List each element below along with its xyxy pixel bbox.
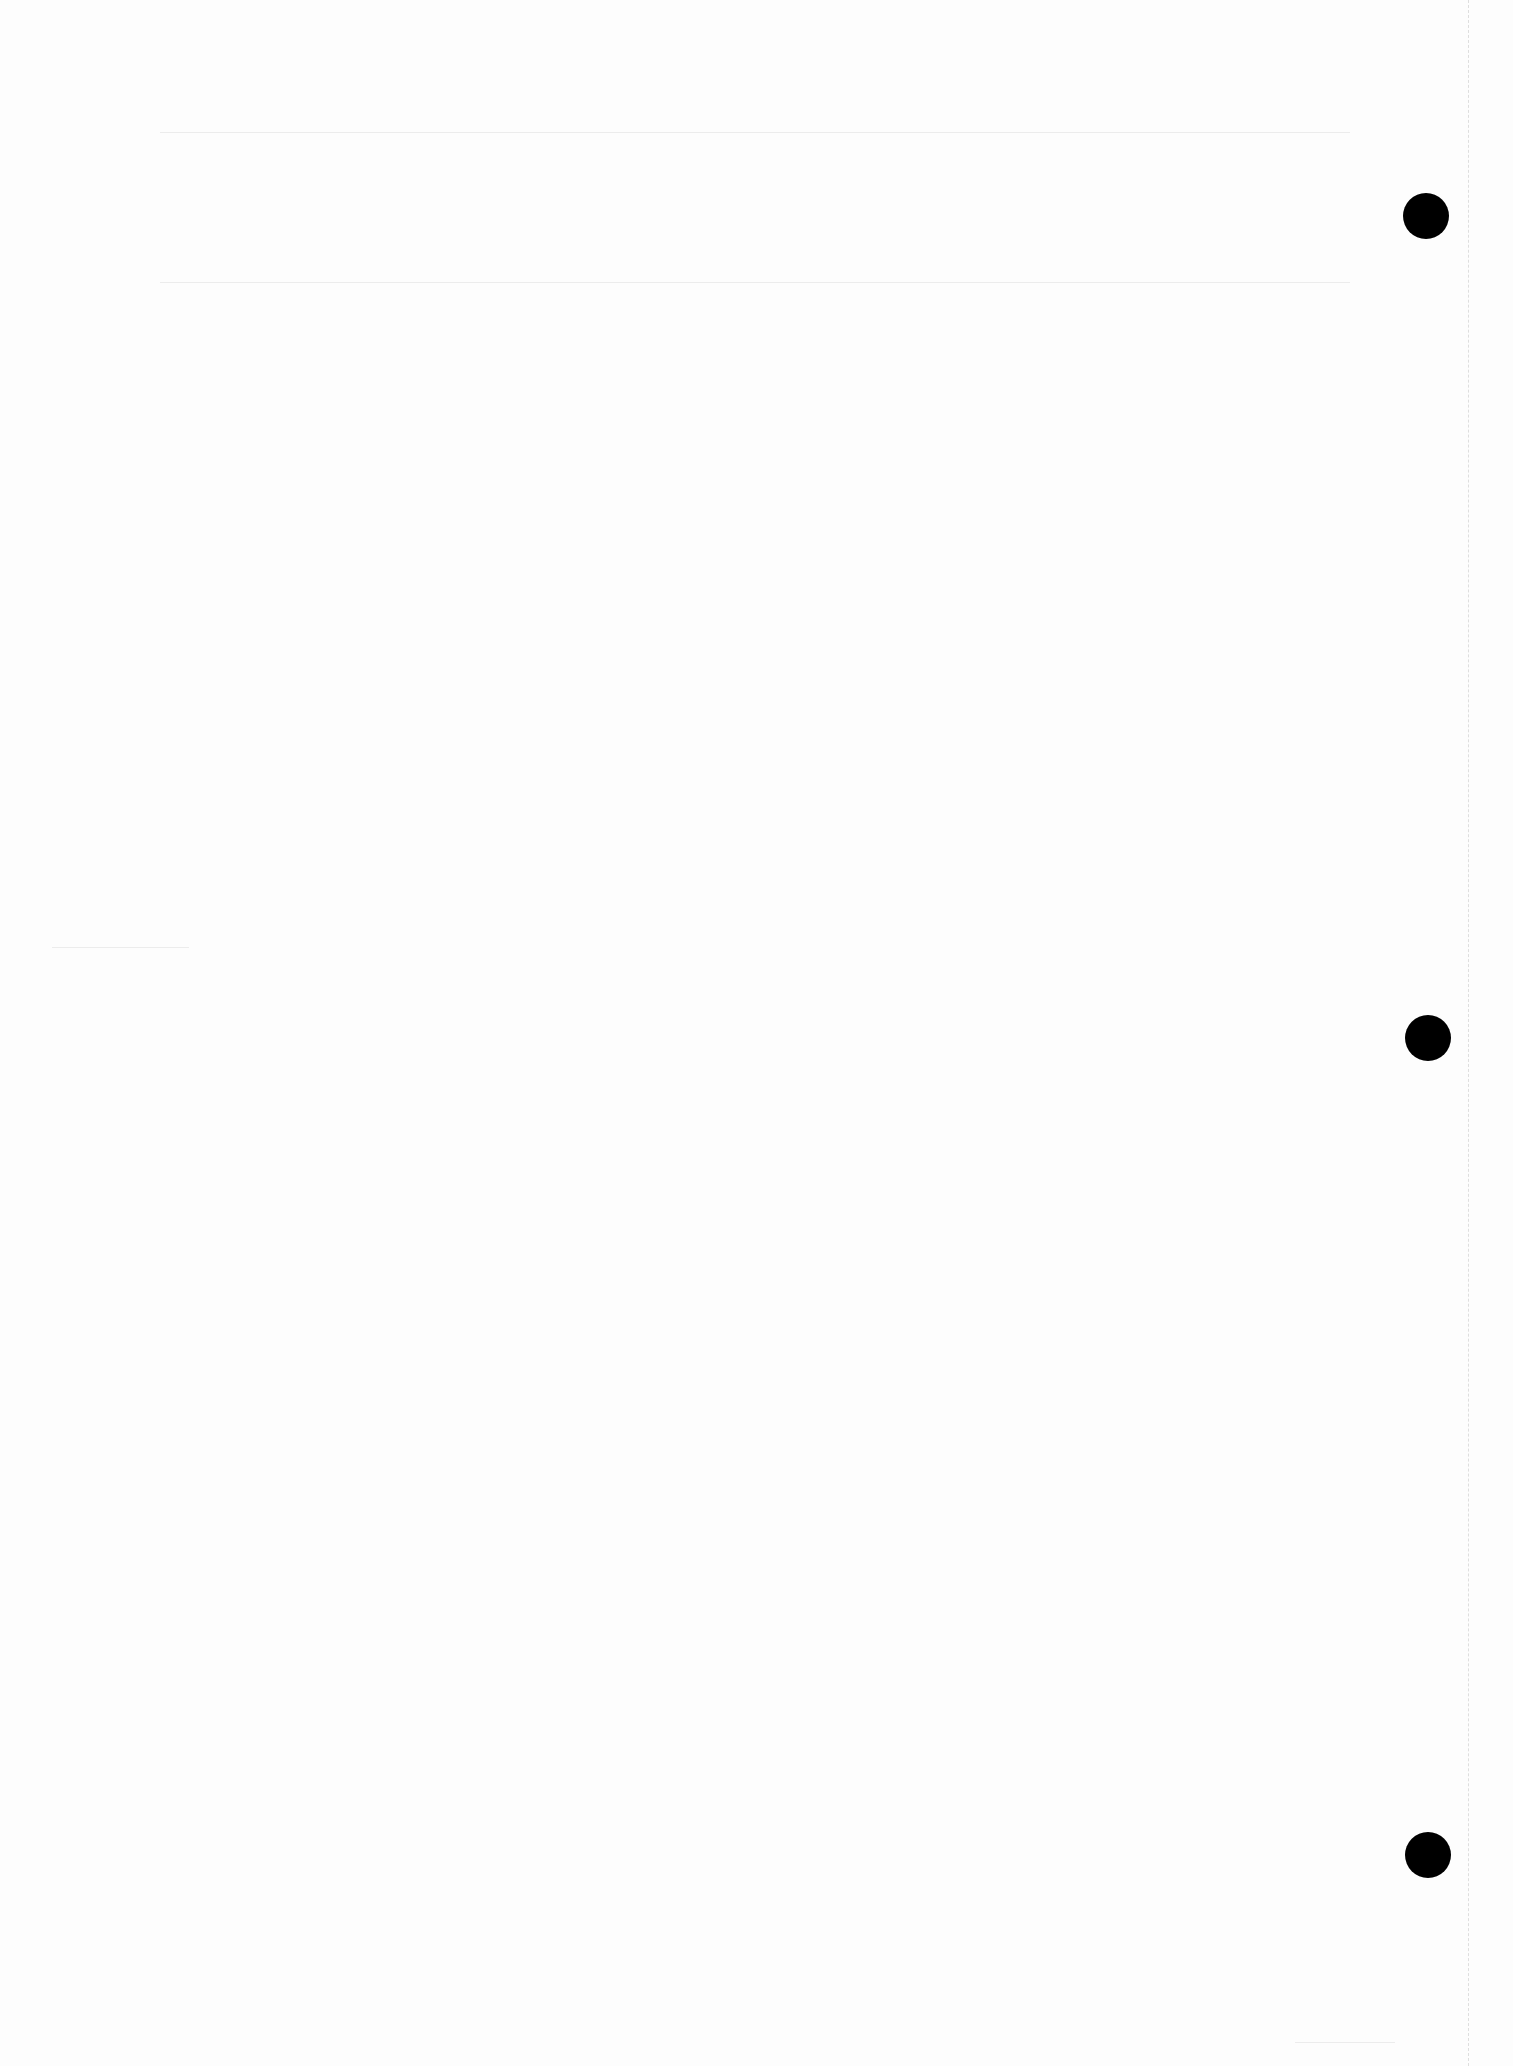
binder-hole-bottom	[1405, 1832, 1451, 1878]
faint-mark-bottom	[1295, 2042, 1395, 2043]
page-edge-line	[1468, 0, 1470, 2066]
faint-mark-left	[52, 947, 189, 948]
faint-rule-bottom	[160, 282, 1350, 283]
binder-hole-top	[1403, 193, 1449, 239]
faint-rule-top	[160, 132, 1350, 133]
scanned-page	[0, 0, 1513, 2066]
binder-hole-middle	[1405, 1015, 1451, 1061]
